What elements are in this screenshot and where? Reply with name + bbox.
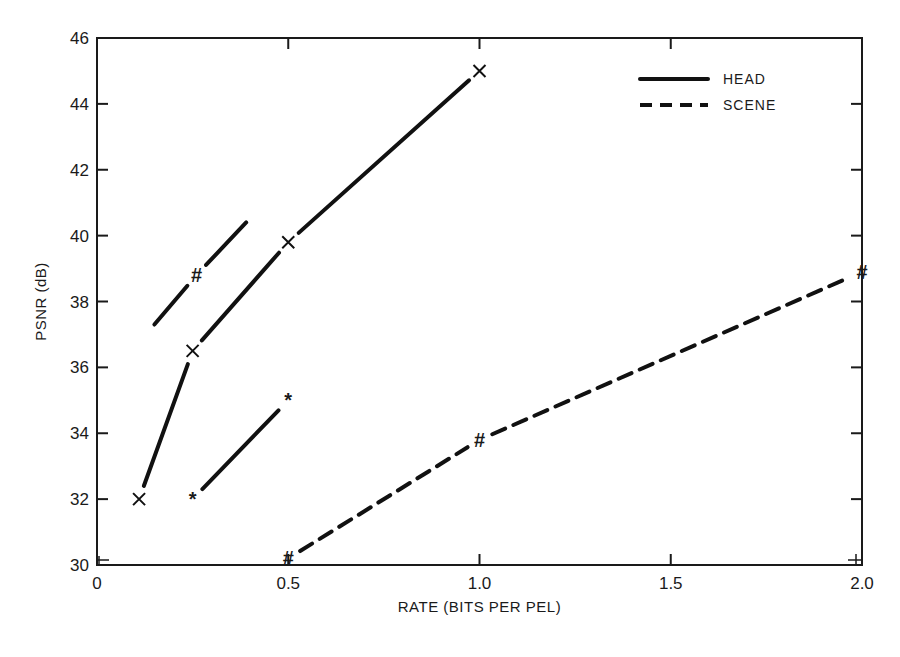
corner-mark-icon [848,554,862,565]
y-tick-label: 34 [70,424,89,443]
series-line-2 [206,222,246,265]
marker-hash-icon: # [474,429,485,451]
chart-canvas: 30323436384042444600.51.01.52.0RATE (BIT… [0,0,900,657]
series-line-3 [492,277,849,434]
series-line-3 [300,447,467,551]
series-line-2 [154,286,187,325]
plot-frame [97,38,862,565]
marker-hash-icon: # [191,264,202,286]
x-axis-title: RATE (BITS PER PEL) [398,598,561,615]
series-line-0 [299,80,469,233]
legend-head-label: HEAD [723,71,766,87]
y-tick-label: 36 [70,358,89,377]
y-tick-label: 42 [70,161,89,180]
origin-mark-icon [97,556,109,565]
series-line-1 [202,410,278,489]
marker-hash-icon: # [856,261,867,283]
series-line-0 [144,364,188,486]
x-tick-label: 1.5 [659,574,683,593]
y-tick-label: 46 [70,29,89,48]
y-tick-label: 32 [70,490,89,509]
x-tick-label: 0.5 [276,574,300,593]
legend-scene-label: SCENE [723,97,776,113]
y-tick-label: 44 [70,95,89,114]
x-tick-label: 0 [92,574,101,593]
x-tick-label: 2.0 [850,574,874,593]
marker-x-icon [187,345,199,357]
x-tick-label: 1.0 [468,574,492,593]
series-line-0 [202,253,279,341]
y-axis-title: PSNR (dB) [32,262,49,341]
marker-asterisk-icon: * [189,488,197,510]
y-tick-label: 38 [70,293,89,312]
marker-x-icon [474,65,486,77]
marker-x-icon [133,493,145,505]
y-tick-label: 30 [70,556,89,575]
marker-hash-icon: # [283,547,294,569]
marker-x-icon [282,236,294,248]
y-tick-label: 40 [70,227,89,246]
marker-asterisk-icon: * [284,389,292,411]
